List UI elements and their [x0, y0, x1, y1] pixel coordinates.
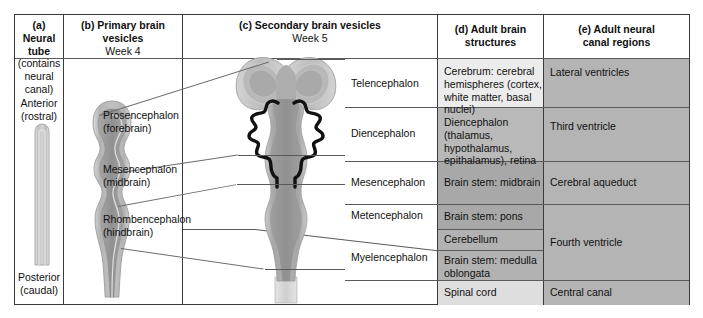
- rule-prosencephalon-right: [277, 59, 345, 60]
- secondary-vesicles-drawing: [223, 55, 349, 305]
- cell-fill-e-third-ventricle: [544, 107, 689, 161]
- label-anterior: Anterior (rostral): [15, 97, 63, 123]
- label-posterior: Posterior (caudal): [15, 271, 63, 297]
- cell-d-medulla: Brain stem: medulla oblongata: [444, 254, 544, 280]
- cell-e-cerebral-aqueduct: Cerebral aqueduct: [550, 176, 690, 189]
- label-prosencephalon: Prosencephalon (forebrain): [103, 109, 181, 135]
- cell-d-spinal-cord: Spinal cord: [444, 286, 544, 299]
- neural-tube-drawing: [29, 115, 55, 270]
- cell-d-pons: Brain stem: pons: [444, 210, 544, 223]
- rule-myelencephalon-left: [183, 229, 255, 230]
- figure-frame: (a) Neural tube (contains neural canal) …: [14, 14, 690, 305]
- header-col-a: (a) Neural tube (contains neural canal): [15, 19, 63, 96]
- label-rhombencephalon: Rhombencephalon (hindbrain): [103, 213, 183, 239]
- cell-d-cerebrum: Cerebrum: cerebral hemispheres (cortex, …: [444, 65, 544, 116]
- rule-mesencephalon-right: [238, 155, 345, 156]
- cell-e-lateral-ventricles: Lateral ventricles: [550, 66, 690, 79]
- header-col-c: (c) Secondary brain vesicles Week 5: [183, 19, 437, 45]
- cell-e-central-canal: Central canal: [550, 286, 690, 299]
- row-rule-medulla-top: [438, 250, 543, 251]
- cell-e-third-ventricle: Third ventricle: [550, 120, 690, 133]
- rule-rhombencephalon-right: [237, 184, 345, 185]
- header-col-d: (d) Adult brain structures: [438, 23, 543, 49]
- cell-d-cerebellum: Cerebellum: [444, 233, 544, 246]
- row-rule-metencephalon-top: [345, 204, 689, 205]
- label-mesencephalon-primary: Mesencephalon (midbrain): [103, 163, 181, 189]
- rule-spinal-right: [265, 269, 345, 270]
- row-rule-spinal-cord-top: [345, 280, 689, 281]
- label-mesencephalon-secondary: Mesencephalon: [351, 176, 425, 189]
- cell-d-diencephalon: Diencephalon (thalamus, hypothalamus, ep…: [444, 116, 544, 167]
- label-telencephalon: Telencephalon: [351, 77, 419, 90]
- header-col-e: (e) Adult neural canal regions: [544, 23, 689, 49]
- cell-e-fourth-ventricle: Fourth ventricle: [550, 236, 690, 249]
- label-diencephalon: Diencephalon: [351, 127, 415, 140]
- label-metencephalon: Metencephalon: [351, 209, 423, 222]
- label-myelencephalon: Myelencephalon: [351, 251, 427, 264]
- header-col-b: (b) Primary brain vesicles Week 4: [64, 19, 182, 57]
- row-rule-cerebellum-top: [438, 229, 543, 230]
- figure-root: (a) Neural tube (contains neural canal) …: [0, 0, 703, 318]
- cell-d-midbrain: Brain stem: midbrain: [444, 176, 544, 189]
